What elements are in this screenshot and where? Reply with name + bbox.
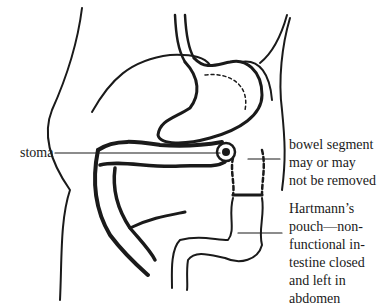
hartmanns-line-2: pouch—non- <box>289 218 365 236</box>
hartmanns-line-5: and left in <box>289 272 365 290</box>
removable-segment <box>232 150 264 195</box>
hartmanns-line-1: Hartmann’s <box>289 200 365 218</box>
hartmanns-line-3: functional in- <box>289 236 365 254</box>
hartmanns-line-4: testine closed <box>289 254 365 272</box>
hartmanns-pouch-label: Hartmann’s pouch—non- functional in- tes… <box>289 200 365 307</box>
bowel-segment-line-3: not be removed <box>289 172 376 190</box>
bowel-segment-line-1: bowel segment <box>289 136 376 154</box>
hartmanns-line-6: abdomen <box>289 290 365 307</box>
transverse-colon <box>98 142 222 150</box>
stoma-label: stoma <box>20 144 53 162</box>
bowel-segment-label: bowel segment may or may not be removed <box>289 136 376 190</box>
bowel-segment-line-2: may or may <box>289 154 376 172</box>
